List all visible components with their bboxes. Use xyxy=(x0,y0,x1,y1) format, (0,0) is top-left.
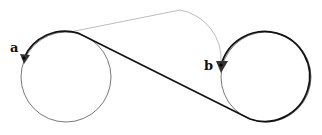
end-arrow-icon xyxy=(216,61,228,73)
dubins-path-diagram: a b xyxy=(0,0,322,135)
end-point xyxy=(219,63,222,66)
alternate-path xyxy=(70,10,221,63)
start-point xyxy=(22,56,25,59)
left-turn-circle xyxy=(21,32,111,122)
primary-path xyxy=(24,31,310,121)
end-label: b xyxy=(204,58,213,73)
start-label: a xyxy=(10,40,19,55)
